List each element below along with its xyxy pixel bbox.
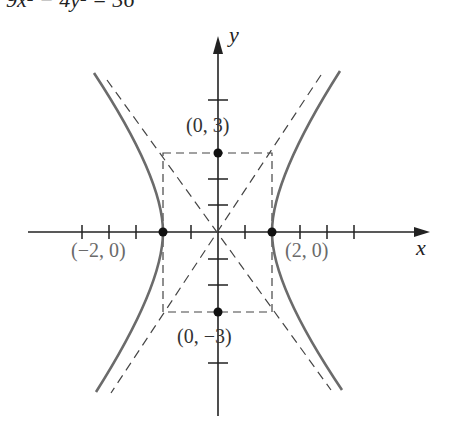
- point-label-bottom: (0, −3): [177, 325, 232, 348]
- hyperbola-graph: [0, 0, 451, 440]
- hyperbola-right-branch: [272, 71, 342, 390]
- point-label-left: (−2, 0): [71, 239, 126, 262]
- y-axis-arrow: [213, 36, 223, 54]
- point-label-top: (0, 3): [186, 114, 229, 137]
- x-axis-label: x: [416, 235, 426, 261]
- point-label-right: (2, 0): [285, 239, 328, 262]
- y-axis-label: y: [229, 22, 239, 48]
